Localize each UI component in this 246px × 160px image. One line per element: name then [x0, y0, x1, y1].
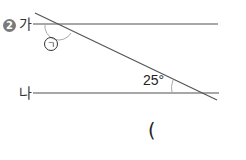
line-label-ga: 가: [19, 17, 32, 31]
problem-number-badge: 2: [3, 19, 16, 32]
transversal: [35, 13, 217, 100]
known-angle-arc: [171, 80, 173, 93]
answer-blank[interactable]: (: [148, 119, 155, 141]
diagram-svg: [0, 0, 246, 160]
known-angle-label: 25°: [143, 72, 164, 88]
diagram: [0, 0, 246, 160]
unknown-angle-label: ㄱ: [44, 37, 58, 51]
line-label-na: 나: [19, 86, 32, 100]
